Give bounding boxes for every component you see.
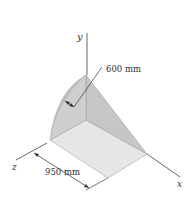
arrowhead-icon <box>84 184 89 188</box>
arrowhead-icon <box>34 153 39 157</box>
length-extension-line <box>86 178 108 190</box>
z-axis <box>16 143 47 160</box>
length-label: 950 mm <box>45 167 80 177</box>
radius-label: 600 mm <box>106 64 141 74</box>
x-axis-label: x <box>177 179 182 189</box>
x-axis <box>147 154 180 177</box>
diagram-canvas: y x z 600 mm 950 mm <box>0 0 192 200</box>
y-axis-label: y <box>76 31 83 42</box>
z-axis-label: z <box>11 162 17 172</box>
